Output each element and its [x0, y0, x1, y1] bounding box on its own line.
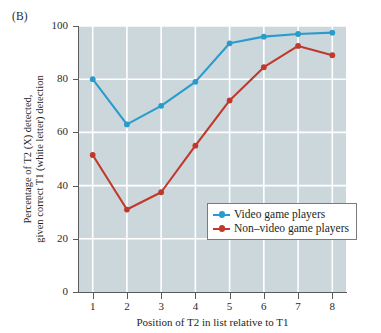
diamond-line-marker — [213, 209, 230, 220]
y-axis-title-line-1: Percentage of T2 (X) detected, — [22, 95, 35, 224]
x-tick-label: 7 — [288, 300, 308, 312]
x-axis-title: Position of T2 in list relative to T1 — [79, 316, 346, 328]
data-point — [295, 43, 301, 49]
data-point — [227, 40, 233, 46]
x-tick-label: 2 — [117, 300, 137, 312]
legend-entry-1: Video game players — [213, 207, 349, 221]
panel-label: (B) — [12, 10, 28, 22]
data-point — [329, 30, 335, 36]
x-tick-mark — [298, 293, 299, 299]
gridlines — [79, 26, 346, 292]
data-point — [124, 207, 130, 213]
y-tick-mark — [73, 239, 79, 240]
data-point — [90, 76, 96, 82]
x-tick-label: 3 — [151, 300, 171, 312]
data-point — [124, 122, 130, 128]
data-point — [261, 34, 267, 40]
y-tick-mark — [73, 26, 79, 27]
y-tick-mark — [73, 79, 79, 80]
chart-legend: Video game playersNon–video game players — [207, 203, 357, 240]
legend-entry-2: Non–video game players — [213, 221, 349, 235]
plot-area — [79, 26, 346, 292]
x-tick-mark — [161, 293, 162, 299]
data-point — [329, 52, 335, 58]
legend-label: Video game players — [234, 208, 325, 220]
plot-svg — [79, 26, 346, 292]
figure-panel-b: (B) 020406080100 12345678 Percentage of … — [0, 0, 381, 333]
x-tick-label: 6 — [254, 300, 274, 312]
data-point — [158, 103, 164, 109]
x-tick-label: 1 — [83, 300, 103, 312]
x-tick-mark — [264, 293, 265, 299]
data-point — [295, 31, 301, 37]
data-point — [227, 98, 233, 104]
x-tick-label: 5 — [220, 300, 240, 312]
y-tick-mark — [73, 292, 79, 293]
data-point — [158, 189, 164, 195]
x-axis-line — [78, 292, 347, 293]
x-tick-label: 8 — [322, 300, 342, 312]
y-axis-title-line-2: given correct T1 (white letter) detectio… — [34, 75, 47, 242]
x-tick-label: 4 — [185, 300, 205, 312]
data-point — [261, 64, 267, 70]
x-tick-mark — [195, 293, 196, 299]
x-tick-mark — [332, 293, 333, 299]
diamond-line-marker — [213, 223, 230, 234]
data-point — [192, 79, 198, 85]
x-tick-mark — [230, 293, 231, 299]
y-tick-mark — [73, 132, 79, 133]
y-axis-line — [78, 26, 79, 293]
y-axis-title: Percentage of T2 (X) detected, given cor… — [20, 26, 48, 292]
x-tick-mark — [93, 293, 94, 299]
data-point — [90, 152, 96, 158]
legend-label: Non–video game players — [234, 222, 349, 234]
x-tick-mark — [127, 293, 128, 299]
y-tick-mark — [73, 186, 79, 187]
data-point — [192, 143, 198, 149]
